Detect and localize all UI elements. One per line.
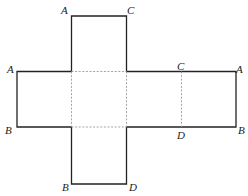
label-right-top: A <box>235 63 243 75</box>
net-outline <box>17 16 236 184</box>
label-bottom-left: B <box>62 181 69 193</box>
label-top-right: C <box>127 4 135 16</box>
label-top-left: A <box>60 4 68 16</box>
label-right-fold-bottom: D <box>176 129 185 141</box>
label-bottom-right: D <box>128 181 137 193</box>
label-right-bottom: B <box>238 124 245 136</box>
label-right-fold-top: C <box>177 60 185 72</box>
cube-net-diagram: A C A B C A D B B D <box>0 0 248 196</box>
label-left-top: A <box>6 63 14 75</box>
label-left-bottom: B <box>5 124 12 136</box>
